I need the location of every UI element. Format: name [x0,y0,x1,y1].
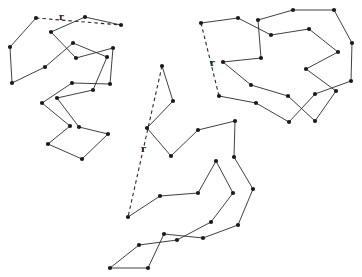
monomer-bead [350,41,354,45]
monomer-bead [256,18,260,22]
monomer-bead [106,132,110,136]
monomer-bead [171,99,175,103]
monomer-bead [119,23,123,27]
monomer-bead [162,232,166,236]
monomer-bead [145,126,149,130]
monomer-bead [313,92,317,96]
chain-2: r [199,8,354,124]
monomer-bead [8,45,12,49]
chain-beads [108,64,255,270]
chain-beads [8,15,123,161]
chain-beads [199,8,354,124]
monomer-bead [304,67,308,71]
monomer-bead [175,238,179,242]
monomer-bead [236,223,240,227]
monomer-bead [146,266,150,270]
monomer-bead [249,83,253,87]
monomer-bead [196,191,200,195]
monomer-bead [286,94,290,98]
r-label: r [59,12,64,22]
monomer-bead [55,96,59,100]
polymer-chains-diagram: r r r [0,0,362,277]
monomer-bead [80,157,84,161]
monomer-bead [231,191,235,195]
monomer-bead [287,120,291,124]
monomer-bead [10,81,14,85]
monomer-bead [199,21,203,25]
monomer-bead [313,119,317,123]
monomer-bead [40,101,44,105]
monomer-bead [77,125,81,129]
monomer-bead [68,124,72,128]
monomer-bead [201,236,205,240]
chain-1: r [8,12,123,161]
monomer-bead [49,30,53,34]
r-label: r [141,144,146,154]
monomer-bead [349,79,353,83]
monomer-bead [83,15,87,19]
monomer-bead [332,8,336,12]
chain-backbone [110,66,253,268]
monomer-bead [111,46,115,50]
monomer-bead [291,8,295,12]
monomer-bead [233,119,237,123]
monomer-bead [232,155,236,159]
monomer-bead [43,65,47,69]
end-to-end-vector [128,66,162,217]
monomer-bead [254,101,258,105]
monomer-bead [105,55,109,59]
monomer-bead [251,187,255,191]
monomer-bead [196,128,200,132]
monomer-bead [336,50,340,54]
chain-backbone [10,17,121,159]
monomer-bead [34,16,38,20]
monomer-bead [214,159,218,163]
monomer-bead [108,266,112,270]
monomer-bead [259,56,263,60]
monomer-bead [71,41,75,45]
monomer-bead [236,16,240,20]
monomer-bead [217,94,221,98]
r-label: r [210,58,215,68]
chain-backbone [201,10,352,122]
end-to-end-vector [36,18,121,25]
monomer-bead [221,60,225,64]
monomer-bead [160,64,164,68]
monomer-bead [108,82,112,86]
monomer-bead [269,33,273,37]
monomer-bead [46,142,50,146]
monomer-bead [74,56,78,60]
monomer-bead [91,88,95,92]
monomer-bead [70,81,74,85]
monomer-bead [137,243,141,247]
monomer-bead [209,220,213,224]
monomer-bead [126,215,130,219]
monomer-bead [307,27,311,31]
monomer-bead [158,194,162,198]
chain-3: r [108,64,255,270]
monomer-bead [334,89,338,93]
monomer-bead [169,154,173,158]
